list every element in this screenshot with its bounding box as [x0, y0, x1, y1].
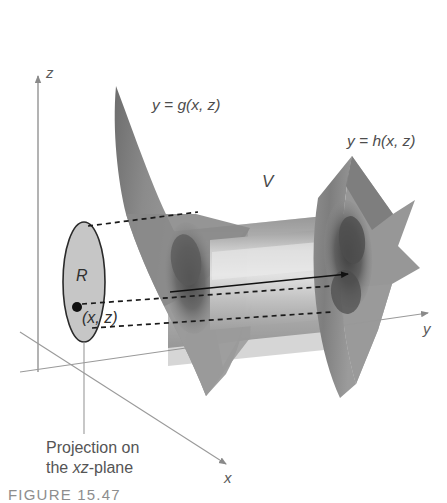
z-axis-label: z: [45, 64, 54, 81]
x-axis-label: x: [223, 469, 232, 486]
region-group: [63, 222, 105, 434]
projection-prefix: the: [46, 459, 73, 476]
region-r-label: R: [76, 267, 88, 284]
figure-number: FIGURE 15.47: [8, 486, 121, 503]
solid-v-label: V: [262, 172, 275, 191]
y-axis-label: y: [422, 320, 432, 337]
projection-caption-line1: Projection on: [46, 439, 139, 456]
point-xz-label: (x, z): [82, 309, 118, 326]
surface-g-label: y = g(x, z): [151, 96, 220, 113]
projection-plane-italic: xz: [72, 459, 89, 476]
projection-suffix: -plane: [89, 459, 134, 476]
point-xz-dot: [72, 302, 82, 312]
projection-caption-line2: the xz-plane: [46, 459, 133, 476]
surface-h-label: y = h(x, z): [346, 132, 415, 149]
